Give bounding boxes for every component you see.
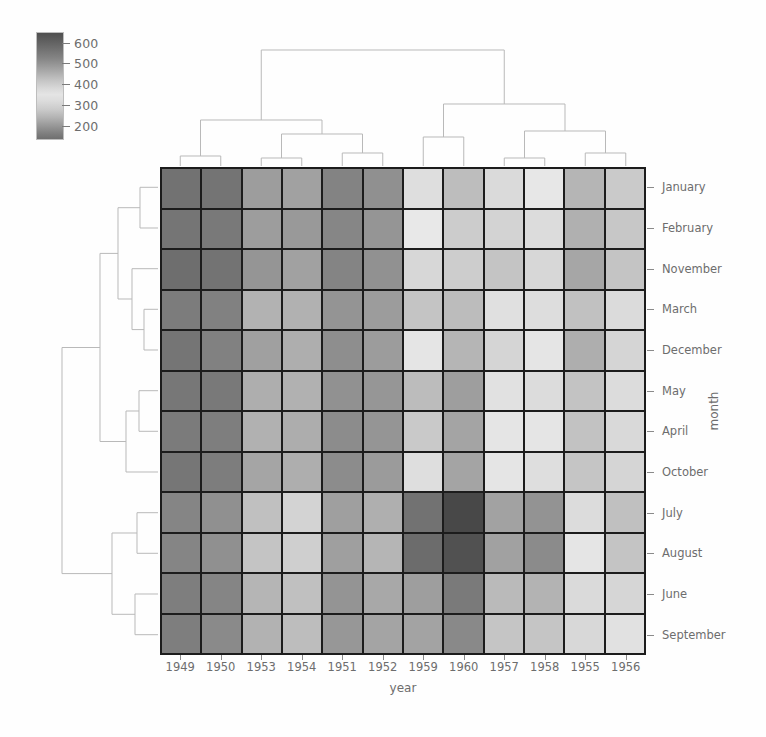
heatmap-cell <box>444 372 482 411</box>
heatmap-cell <box>243 331 281 370</box>
heatmap-cell <box>444 331 482 370</box>
heatmap-cell <box>364 493 402 532</box>
heatmap-cell <box>404 169 442 208</box>
colorbar-tick-label-600: 600 <box>74 35 98 50</box>
heatmap-cell <box>404 493 442 532</box>
heatmap-cell <box>323 250 361 289</box>
heatmap-cell <box>444 169 482 208</box>
heatmap-cell <box>565 574 603 613</box>
heatmap-cell <box>283 534 321 573</box>
heatmap-cell <box>202 615 240 654</box>
heatmap-cell <box>444 291 482 330</box>
heatmap-cell <box>364 169 402 208</box>
heatmap-cell <box>606 331 644 370</box>
heatmap-cell <box>525 250 563 289</box>
heatmap-cell <box>243 534 281 573</box>
heatmap-cell <box>404 534 442 573</box>
heatmap-cell <box>364 291 402 330</box>
colorbar-tick-mark <box>62 126 70 127</box>
heatmap-cell <box>283 493 321 532</box>
y-tick-label-june: June <box>662 587 687 601</box>
heatmap-cell <box>565 250 603 289</box>
colorbar-gradient <box>36 32 64 140</box>
heatmap-cell <box>162 453 200 492</box>
heatmap-cell <box>283 331 321 370</box>
heatmap-cell <box>162 534 200 573</box>
x-tick-label-1949: 1949 <box>166 660 195 674</box>
heatmap-cell <box>364 574 402 613</box>
y-tick-label-august: August <box>662 546 702 560</box>
colorbar-tick-mark <box>62 43 70 44</box>
x-tick-label-1951: 1951 <box>328 660 357 674</box>
y-tick-mark <box>647 472 654 473</box>
heatmap-cell <box>162 210 200 249</box>
heatmap-cell <box>606 412 644 451</box>
heatmap-cell <box>485 210 523 249</box>
heatmap-cell <box>323 210 361 249</box>
heatmap-cell <box>444 493 482 532</box>
heatmap-cell <box>525 615 563 654</box>
heatmap-cell <box>485 250 523 289</box>
heatmap-cell <box>525 574 563 613</box>
heatmap-cell <box>202 534 240 573</box>
heatmap-cell <box>323 331 361 370</box>
heatmap-cell <box>323 534 361 573</box>
heatmap-cell <box>162 291 200 330</box>
heatmap-cell <box>364 210 402 249</box>
y-tick-mark <box>647 431 654 432</box>
heatmap-cell <box>323 372 361 411</box>
x-tick-label-1954: 1954 <box>287 660 316 674</box>
heatmap-cell <box>243 250 281 289</box>
heatmap-cell <box>364 412 402 451</box>
y-tick-label-january: January <box>662 180 706 194</box>
heatmap-cell <box>606 453 644 492</box>
column-dendrogram <box>160 36 646 166</box>
heatmap-cell <box>404 291 442 330</box>
heatmap-cell <box>243 291 281 330</box>
y-tick-mark <box>647 309 654 310</box>
x-axis-label: year <box>390 681 417 695</box>
y-tick-mark <box>647 513 654 514</box>
y-tick-mark <box>647 391 654 392</box>
heatmap-cell <box>323 412 361 451</box>
colorbar-tick-label-400: 400 <box>74 76 98 91</box>
heatmap-cell <box>444 412 482 451</box>
heatmap-cell <box>162 412 200 451</box>
heatmap-cell <box>404 250 442 289</box>
heatmap-cell <box>202 169 240 208</box>
heatmap-cell <box>202 372 240 411</box>
heatmap-cell <box>283 615 321 654</box>
x-tick-label-1957: 1957 <box>490 660 519 674</box>
heatmap-cell <box>162 250 200 289</box>
y-tick-mark <box>647 635 654 636</box>
heatmap-cell <box>202 250 240 289</box>
heatmap-cell <box>485 412 523 451</box>
heatmap-cell <box>404 331 442 370</box>
y-tick-mark <box>647 187 654 188</box>
heatmap-cell <box>525 372 563 411</box>
heatmap-cell <box>565 169 603 208</box>
y-tick-mark <box>647 269 654 270</box>
y-tick-label-september: September <box>662 628 726 642</box>
heatmap-cell <box>283 250 321 289</box>
heatmap-cell <box>162 493 200 532</box>
heatmap-cell <box>565 453 603 492</box>
heatmap-cell <box>364 250 402 289</box>
x-tick-label-1958: 1958 <box>530 660 559 674</box>
x-tick-label-1950: 1950 <box>206 660 235 674</box>
heatmap-cell <box>606 574 644 613</box>
heatmap-cell <box>606 250 644 289</box>
heatmap-cell <box>565 615 603 654</box>
heatmap-cell <box>485 615 523 654</box>
heatmap-cell <box>525 534 563 573</box>
heatmap-cell <box>485 493 523 532</box>
heatmap-cell <box>444 210 482 249</box>
heatmap-cell <box>565 331 603 370</box>
heatmap-cell <box>606 534 644 573</box>
heatmap-cell <box>243 372 281 411</box>
heatmap-cell <box>162 169 200 208</box>
heatmap-cell <box>565 534 603 573</box>
heatmap-cell <box>525 210 563 249</box>
heatmap-cell <box>323 169 361 208</box>
x-tick-label-1952: 1952 <box>368 660 397 674</box>
